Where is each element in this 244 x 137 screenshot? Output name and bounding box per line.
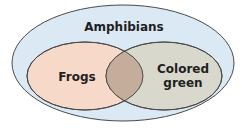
- frogs-label: Frogs: [52, 70, 102, 84]
- colored-green-label-line2: green: [148, 76, 218, 90]
- colored-green-label-line1: Colored: [148, 62, 218, 76]
- colored-green-label: Colored green: [148, 62, 218, 90]
- amphibians-label: Amphibians: [84, 20, 164, 34]
